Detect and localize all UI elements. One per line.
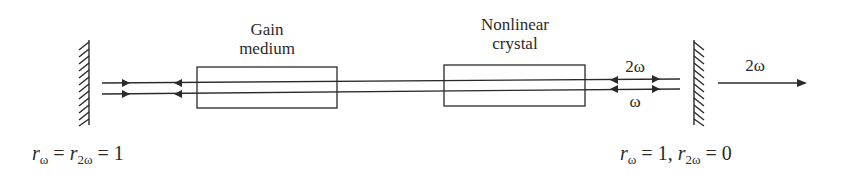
upper-beam-label: 2ω (615, 57, 655, 76)
gain-medium-label: Gain medium (222, 20, 312, 58)
eq-left-r1: r (32, 142, 40, 164)
left-mirror-reflectivity: rω = r2ω = 1 (32, 142, 124, 168)
eq-right-op2: = 0 (701, 142, 732, 164)
eq-left-op2: = 1 (93, 142, 124, 164)
gain-medium-box (197, 67, 337, 108)
eq-right-r1: r (620, 142, 628, 164)
nonlinear-crystal-label: Nonlinear crystal (465, 15, 565, 53)
left-mirror-icon (79, 40, 89, 126)
nonlinear-crystal-box (444, 65, 585, 106)
eq-right-op1: = 1, (636, 142, 677, 164)
gain-medium-label-line1: Gain (222, 20, 312, 39)
eq-right-sub2: 2ω (685, 152, 700, 167)
lower-beam-label: ω (620, 92, 650, 111)
eq-left-sub2: 2ω (77, 152, 92, 167)
right-mirror-icon (694, 40, 704, 126)
nonlinear-crystal-label-line1: Nonlinear (465, 15, 565, 34)
arrowheads-right (610, 75, 660, 93)
arrowheads-left (122, 79, 182, 98)
output-beam-label: 2ω (735, 56, 775, 75)
nonlinear-crystal-label-line2: crystal (465, 34, 565, 53)
gain-medium-label-line2: medium (222, 39, 312, 58)
right-mirror-reflectivity: rω = 1, r2ω = 0 (620, 142, 732, 168)
cavity-diagram: Gain medium Nonlinear crystal 2ω ω 2ω rω… (0, 0, 842, 175)
beam-lines (102, 79, 680, 94)
eq-left-op1: = (48, 142, 69, 164)
